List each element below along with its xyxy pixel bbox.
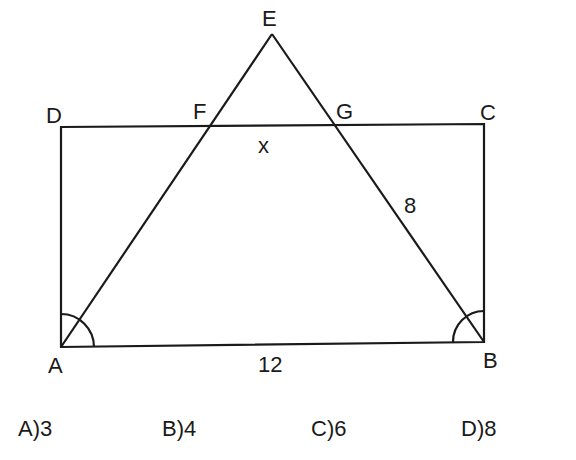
option-value: 4 — [184, 416, 196, 441]
answer-option-a[interactable]: A)3 — [18, 416, 52, 442]
option-letter: D) — [461, 416, 484, 441]
answer-option-b[interactable]: B)4 — [162, 416, 196, 442]
option-letter: B) — [162, 416, 184, 441]
point-label-b: B — [483, 348, 498, 373]
point-label-a: A — [48, 353, 63, 378]
option-letter: A) — [18, 416, 40, 441]
option-value: 8 — [484, 416, 496, 441]
segment-label-ab: 12 — [258, 352, 282, 377]
segment-label-eg: 8 — [404, 193, 416, 218]
geometry-figure: E D F G C x 8 A 12 B — [0, 0, 576, 460]
point-label-e: E — [262, 6, 277, 31]
option-letter: C) — [311, 416, 334, 441]
segment-be — [272, 34, 484, 342]
segment-ae — [61, 34, 272, 347]
point-label-d: D — [46, 103, 62, 128]
angle-mark-b — [453, 311, 484, 342]
point-label-g: G — [336, 99, 353, 124]
option-value: 3 — [40, 416, 52, 441]
segment-label-x: x — [258, 133, 269, 158]
answer-option-c[interactable]: C)6 — [311, 416, 346, 442]
point-label-f: F — [193, 99, 206, 124]
option-value: 6 — [334, 416, 346, 441]
answer-option-d[interactable]: D)8 — [461, 416, 496, 442]
angle-mark-a — [61, 314, 94, 347]
rectangle-abcd — [61, 124, 484, 347]
point-label-c: C — [480, 100, 496, 125]
